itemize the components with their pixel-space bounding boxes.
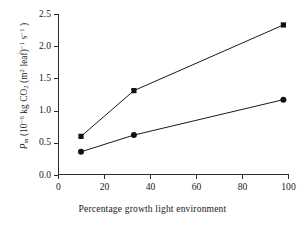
y-axis-label-exp3: −1 (18, 28, 25, 35)
data-point (78, 149, 84, 155)
x-tick-label: 20 (100, 181, 110, 192)
y-axis-label-close: ) (19, 23, 29, 29)
data-point (78, 134, 83, 139)
data-layer (58, 14, 288, 175)
y-axis-label-symbol: P (19, 143, 29, 149)
x-axis-label: Percentage growth light environment (0, 203, 305, 214)
y-axis-label-unit4: s (19, 36, 29, 42)
plot-area: 0.00.51.01.52.02.5 020406080100 (58, 14, 288, 175)
data-point (131, 132, 137, 138)
data-point (281, 22, 286, 27)
y-tick-label: 1.0 (39, 104, 51, 115)
y-axis-label-unit3: leaf) (19, 49, 29, 69)
y-tick-label: 0.0 (39, 169, 51, 180)
y-axis-label-open: (10 (19, 123, 29, 138)
y-axis-label-unit1: kg CO (19, 89, 29, 116)
x-tick: 100 (288, 174, 289, 179)
y-axis-label-exp2: −1 (18, 42, 25, 49)
y-tick-label: 0.5 (39, 136, 51, 147)
y-axis-label-symbol-sub: m (22, 139, 29, 144)
y-axis-label-unit2: (m (19, 72, 29, 85)
x-tick-label: 100 (281, 181, 295, 192)
y-axis-label-unit2-sup: 2 (18, 69, 25, 72)
series-line-upper-series (81, 25, 283, 136)
x-tick-label: 0 (56, 181, 61, 192)
x-tick-label: 40 (146, 181, 156, 192)
data-point (280, 97, 286, 103)
y-tick-label: 2.0 (39, 40, 51, 51)
y-axis-label: Pm (10−6 kg CO2 (m2 leaf)−1 s−1 ) (11, 1, 33, 171)
data-point (131, 88, 136, 93)
series-line-lower-series (81, 100, 283, 152)
x-tick-label: 80 (238, 181, 248, 192)
x-tick-label: 60 (192, 181, 202, 192)
y-axis-label-unit1-sub: 2 (22, 85, 29, 88)
y-axis-label-exp1: −6 (18, 116, 25, 123)
y-tick-label: 2.5 (39, 8, 51, 19)
chart-figure: Pm (10−6 kg CO2 (m2 leaf)−1 s−1 ) 0.00.5… (0, 0, 305, 227)
y-tick-label: 1.5 (39, 72, 51, 83)
